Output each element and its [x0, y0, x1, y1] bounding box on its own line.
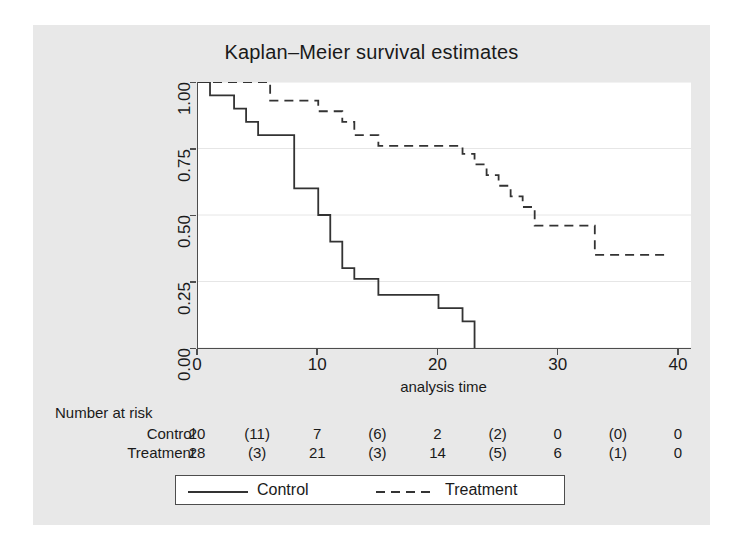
risk-cell: (5) [476, 444, 520, 461]
page-title: Kaplan–Meier survival estimates [33, 41, 710, 64]
plot-area [197, 82, 691, 349]
risk-cell: (0) [596, 425, 640, 442]
risk-cell: (1) [596, 444, 640, 461]
y-tick-mark [190, 148, 196, 150]
x-tick-label: 20 [417, 355, 457, 375]
x-tick-mark [316, 349, 318, 355]
risk-cell: 0 [656, 444, 700, 461]
risk-cell: 7 [295, 425, 339, 442]
risk-cell: (2) [476, 425, 520, 442]
risk-cell: (6) [355, 425, 399, 442]
x-axis-title: analysis time [197, 378, 690, 395]
risk-cell: 0 [536, 425, 580, 442]
y-tick-label: 0.25 [175, 282, 195, 342]
legend-label: Control [257, 481, 309, 499]
x-tick-label: 0 [177, 355, 217, 375]
x-tick-label: 10 [297, 355, 337, 375]
survival-curve-treatment [198, 82, 667, 255]
risk-table-title: Number at risk [55, 404, 153, 421]
legend-swatch-dashed [376, 484, 436, 496]
y-tick-mark [190, 281, 196, 283]
legend-entry-control: Control [188, 476, 309, 504]
legend-swatch-solid [188, 484, 248, 496]
y-tick-label: 0.50 [175, 215, 195, 275]
x-tick-mark [437, 349, 439, 355]
x-tick-label: 40 [658, 355, 698, 375]
legend-entry-treatment: Treatment [376, 476, 517, 504]
risk-cell: 20 [175, 425, 219, 442]
risk-cell: 28 [175, 444, 219, 461]
risk-cell: 6 [536, 444, 580, 461]
chart-legend: ControlTreatment [175, 475, 565, 505]
risk-cell: (3) [355, 444, 399, 461]
y-tick-label: 0.75 [175, 149, 195, 209]
risk-cell: (3) [235, 444, 279, 461]
y-tick-mark [190, 215, 196, 217]
graph-region: Kaplan–Meier survival estimates 0.000.25… [33, 25, 710, 525]
risk-cell: 14 [415, 444, 459, 461]
risk-cell: (11) [235, 425, 279, 442]
risk-cell: 2 [415, 425, 459, 442]
survival-curves-svg [198, 82, 691, 348]
y-tick-mark [190, 82, 196, 84]
screenshot-page: Kaplan–Meier survival estimates 0.000.25… [0, 0, 740, 551]
risk-row-label-control: Control [55, 425, 195, 442]
y-tick-label: 1.00 [175, 82, 195, 142]
risk-cell: 21 [295, 444, 339, 461]
x-tick-label: 30 [538, 355, 578, 375]
x-tick-mark [196, 349, 198, 355]
legend-label: Treatment [445, 481, 517, 499]
risk-cell: 0 [656, 425, 700, 442]
y-tick-mark [190, 348, 196, 350]
risk-row-label-treatment: Treatment [55, 444, 195, 461]
x-tick-mark [557, 349, 559, 355]
x-tick-mark [677, 349, 679, 355]
